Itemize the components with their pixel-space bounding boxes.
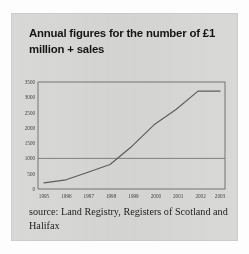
- ytick-label: 3500: [25, 79, 36, 85]
- y-axis-ticks: 3500 3000 2500 2000 1500 1000 500 0: [25, 79, 36, 192]
- chart-page: Annual figures for the number of £1 mill…: [0, 0, 249, 254]
- plot-frame: [38, 82, 225, 189]
- xtick-label: 2002: [195, 193, 206, 198]
- line-chart-svg: 3500 3000 2500 2000 1500 1000 500 0 1995…: [11, 62, 238, 198]
- ytick-label: 2000: [25, 125, 36, 131]
- ytick-label: 1000: [25, 155, 36, 161]
- ytick-label: 0: [32, 186, 35, 192]
- ytick-label: 1500: [25, 140, 36, 146]
- x-axis-ticks: 1995 1996 1997 1998 1999 2000 2001 2002 …: [39, 193, 226, 198]
- data-series-line: [44, 91, 220, 183]
- xtick-label: 1998: [106, 193, 117, 198]
- xtick-label: 1997: [84, 193, 95, 198]
- xtick-label: 2000: [151, 193, 162, 198]
- xtick-label: 1996: [61, 193, 72, 198]
- ytick-label: 3000: [25, 94, 36, 100]
- xtick-label: 1999: [128, 193, 139, 198]
- xtick-label: 2001: [173, 193, 184, 198]
- xtick-label: 2003: [215, 193, 226, 198]
- page-title: Annual figures for the number of £1 mill…: [29, 26, 225, 57]
- ytick-label: 500: [27, 171, 35, 177]
- chart-card: Annual figures for the number of £1 mill…: [11, 13, 238, 241]
- plot-area: 3500 3000 2500 2000 1500 1000 500 0 1995…: [11, 62, 238, 198]
- ytick-label: 2500: [25, 110, 36, 116]
- source-caption: source: Land Registry, Registers of Scot…: [29, 205, 229, 233]
- xtick-label: 1995: [39, 193, 50, 198]
